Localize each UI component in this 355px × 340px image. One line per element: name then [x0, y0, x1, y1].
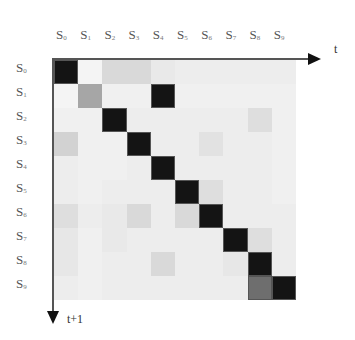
matrix-cell-r2-c3 — [127, 108, 151, 132]
matrix-cell-r9-c1 — [78, 276, 102, 300]
matrix-cell-r4-c5 — [175, 156, 199, 180]
matrix-cell-r7-c2 — [102, 228, 126, 252]
matrix-cell-r0-c3 — [127, 60, 151, 84]
matrix-cell-r4-c1 — [78, 156, 102, 180]
matrix-cell-r9-c2 — [102, 276, 126, 300]
matrix-cell-r5-c0 — [54, 180, 78, 204]
column-label-s1: S1 — [80, 28, 91, 42]
matrix-cell-r5-c4 — [151, 180, 175, 204]
matrix-cell-r4-c8 — [248, 156, 272, 180]
matrix-cell-r3-c2 — [102, 132, 126, 156]
matrix-cell-r6-c5 — [175, 204, 199, 228]
matrix-cell-r8-c6 — [199, 252, 223, 276]
matrix-cell-r9-c7 — [223, 276, 247, 300]
matrix-cell-r5-c9 — [272, 180, 296, 204]
matrix-cell-r7-c6 — [199, 228, 223, 252]
matrix-cell-r3-c9 — [272, 132, 296, 156]
column-label-s7: S7 — [225, 28, 236, 42]
matrix-cell-r6-c0 — [54, 204, 78, 228]
matrix-cell-r2-c7 — [223, 108, 247, 132]
matrix-cell-r4-c3 — [127, 156, 151, 180]
row-label-s0: S0 — [16, 61, 27, 75]
matrix-cell-r1-c8 — [248, 84, 272, 108]
matrix-cell-r7-c1 — [78, 228, 102, 252]
matrix-cell-r9-c0 — [54, 276, 78, 300]
matrix-cell-r5-c6 — [199, 180, 223, 204]
matrix-cell-r3-c4 — [151, 132, 175, 156]
matrix-cell-r2-c1 — [78, 108, 102, 132]
column-label-s3: S3 — [129, 28, 140, 42]
matrix-cell-r2-c0 — [54, 108, 78, 132]
matrix-cell-r6-c8 — [248, 204, 272, 228]
matrix-cell-r9-c8 — [248, 276, 272, 300]
matrix-cell-r2-c2 — [102, 108, 126, 132]
matrix-cell-r3-c3 — [127, 132, 151, 156]
matrix-cell-r0-c5 — [175, 60, 199, 84]
matrix-cell-r8-c8 — [248, 252, 272, 276]
matrix-cell-r8-c5 — [175, 252, 199, 276]
column-label-s8: S8 — [250, 28, 261, 42]
right-arrow-icon — [308, 53, 321, 65]
matrix-cell-r8-c9 — [272, 252, 296, 276]
matrix-cell-r1-c6 — [199, 84, 223, 108]
matrix-cell-r5-c5 — [175, 180, 199, 204]
row-label-s4: S4 — [16, 157, 27, 171]
matrix-cell-r5-c7 — [223, 180, 247, 204]
matrix-cell-r6-c7 — [223, 204, 247, 228]
matrix-cell-r0-c8 — [248, 60, 272, 84]
matrix-cell-r5-c2 — [102, 180, 126, 204]
matrix-cell-r9-c6 — [199, 276, 223, 300]
matrix-cell-r4-c6 — [199, 156, 223, 180]
x-axis-label: t — [334, 42, 337, 57]
matrix-cell-r4-c2 — [102, 156, 126, 180]
matrix-cell-r2-c8 — [248, 108, 272, 132]
matrix-cell-r0-c4 — [151, 60, 175, 84]
matrix-cell-r9-c4 — [151, 276, 175, 300]
matrix-cell-r3-c1 — [78, 132, 102, 156]
row-label-s9: S9 — [16, 277, 27, 291]
matrix-cell-r3-c8 — [248, 132, 272, 156]
matrix-cell-r4-c9 — [272, 156, 296, 180]
matrix-cell-r4-c0 — [54, 156, 78, 180]
down-arrow-icon — [47, 311, 59, 324]
matrix-cell-r5-c3 — [127, 180, 151, 204]
matrix-cell-r1-c2 — [102, 84, 126, 108]
matrix-cell-r0-c2 — [102, 60, 126, 84]
matrix-cell-r2-c6 — [199, 108, 223, 132]
matrix-cell-r8-c0 — [54, 252, 78, 276]
matrix-cell-r6-c4 — [151, 204, 175, 228]
matrix-cell-r5-c8 — [248, 180, 272, 204]
matrix-cell-r6-c9 — [272, 204, 296, 228]
matrix-cell-r0-c9 — [272, 60, 296, 84]
matrix-cell-r9-c3 — [127, 276, 151, 300]
matrix-cell-r7-c5 — [175, 228, 199, 252]
matrix-cell-r7-c8 — [248, 228, 272, 252]
matrix-cell-r2-c5 — [175, 108, 199, 132]
matrix-cell-r8-c2 — [102, 252, 126, 276]
matrix-cell-r1-c0 — [54, 84, 78, 108]
row-label-s5: S5 — [16, 181, 27, 195]
matrix-cell-r7-c9 — [272, 228, 296, 252]
row-label-s8: S8 — [16, 253, 27, 267]
next-time-axis-line — [52, 58, 54, 313]
column-label-s9: S9 — [274, 28, 285, 42]
matrix-cell-r0-c1 — [78, 60, 102, 84]
matrix-cell-r1-c1 — [78, 84, 102, 108]
matrix-cell-r8-c3 — [127, 252, 151, 276]
matrix-cell-r6-c1 — [78, 204, 102, 228]
y-axis-label: t+1 — [67, 312, 83, 327]
matrix-cell-r6-c2 — [102, 204, 126, 228]
matrix-cell-r9-c5 — [175, 276, 199, 300]
matrix-cell-r8-c1 — [78, 252, 102, 276]
matrix-cell-r1-c3 — [127, 84, 151, 108]
matrix-cell-r7-c0 — [54, 228, 78, 252]
matrix-cell-r7-c3 — [127, 228, 151, 252]
matrix-cell-r7-c4 — [151, 228, 175, 252]
matrix-cell-r0-c6 — [199, 60, 223, 84]
transition-matrix-grid — [54, 60, 296, 300]
matrix-cell-r9-c9 — [272, 276, 296, 300]
matrix-cell-r4-c7 — [223, 156, 247, 180]
matrix-cell-r0-c7 — [223, 60, 247, 84]
matrix-cell-r1-c4 — [151, 84, 175, 108]
matrix-cell-r7-c7 — [223, 228, 247, 252]
